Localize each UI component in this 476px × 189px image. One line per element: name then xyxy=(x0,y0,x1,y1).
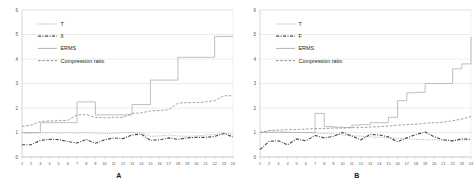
svg-text:6: 6 xyxy=(67,161,69,166)
svg-text:6: 6 xyxy=(305,161,307,166)
svg-text:16: 16 xyxy=(395,161,399,166)
svg-text:3: 3 xyxy=(15,81,18,86)
svg-text:5: 5 xyxy=(58,161,60,166)
svg-text:10: 10 xyxy=(340,161,345,166)
svg-text:4: 4 xyxy=(15,57,18,62)
svg-text:21: 21 xyxy=(441,161,445,166)
svg-text:15: 15 xyxy=(386,161,390,166)
svg-text:7: 7 xyxy=(314,161,316,166)
svg-text:13: 13 xyxy=(368,161,372,166)
svg-text:3: 3 xyxy=(253,81,256,86)
svg-text:19: 19 xyxy=(185,161,189,166)
svg-text:2: 2 xyxy=(253,106,256,111)
svg-text:14: 14 xyxy=(139,161,144,166)
svg-text:12: 12 xyxy=(121,161,125,166)
svg-text:24: 24 xyxy=(231,161,236,166)
series-line xyxy=(260,37,471,133)
svg-text:1: 1 xyxy=(21,161,23,166)
svg-text:9: 9 xyxy=(94,161,96,166)
chart-panel-a: 0123456123456789101112131415161718192021… xyxy=(0,0,238,189)
svg-text:21: 21 xyxy=(203,161,207,166)
svg-text:23: 23 xyxy=(222,161,226,166)
chart-svg-b: 0123456123456789101112131415161718192021… xyxy=(238,0,476,176)
chart-svg-a: 0123456123456789101112131415161718192021… xyxy=(0,0,238,176)
svg-text:5: 5 xyxy=(296,161,298,166)
svg-text:5: 5 xyxy=(253,32,256,37)
legend-label: ERMS xyxy=(61,45,77,51)
svg-text:4: 4 xyxy=(48,161,51,166)
svg-text:1: 1 xyxy=(15,130,18,135)
svg-text:16: 16 xyxy=(157,161,161,166)
series-line xyxy=(22,36,233,132)
series-line xyxy=(22,133,233,137)
svg-text:15: 15 xyxy=(148,161,152,166)
legend-label: Compression ratio xyxy=(299,58,343,64)
series-line xyxy=(22,96,233,127)
panel-caption-a: A xyxy=(0,172,238,179)
svg-text:20: 20 xyxy=(432,161,437,166)
svg-text:13: 13 xyxy=(130,161,134,166)
svg-text:9: 9 xyxy=(332,161,334,166)
legend-label: Compression ratio xyxy=(61,58,105,64)
plot-area-b: 0123456123456789101112131415161718192021… xyxy=(238,0,476,176)
svg-text:1: 1 xyxy=(253,130,256,135)
svg-text:20: 20 xyxy=(194,161,199,166)
svg-text:8: 8 xyxy=(85,161,87,166)
svg-text:6: 6 xyxy=(15,8,18,13)
svg-text:22: 22 xyxy=(450,161,454,166)
svg-text:0: 0 xyxy=(253,155,256,160)
series-line xyxy=(260,132,471,150)
svg-text:23: 23 xyxy=(460,161,464,166)
legend-label: ERMS xyxy=(299,45,315,51)
svg-text:10: 10 xyxy=(102,161,107,166)
svg-text:4: 4 xyxy=(253,57,256,62)
svg-text:11: 11 xyxy=(112,161,116,166)
svg-text:12: 12 xyxy=(359,161,363,166)
svg-text:11: 11 xyxy=(350,161,354,166)
figure-root: 0123456123456789101112131415161718192021… xyxy=(0,0,476,189)
legend-label: T xyxy=(299,21,303,27)
svg-text:2: 2 xyxy=(30,161,32,166)
svg-text:4: 4 xyxy=(286,161,289,166)
svg-text:3: 3 xyxy=(39,161,41,166)
svg-text:5: 5 xyxy=(15,32,18,37)
svg-text:22: 22 xyxy=(212,161,216,166)
svg-text:0: 0 xyxy=(15,155,18,160)
legend-label: T xyxy=(61,21,65,27)
svg-text:3: 3 xyxy=(277,161,279,166)
svg-text:24: 24 xyxy=(469,161,474,166)
svg-text:18: 18 xyxy=(414,161,418,166)
chart-panel-b: 0123456123456789101112131415161718192021… xyxy=(238,0,476,189)
svg-text:7: 7 xyxy=(76,161,78,166)
svg-text:8: 8 xyxy=(323,161,325,166)
svg-text:2: 2 xyxy=(15,106,18,111)
legend-label: δ xyxy=(61,33,64,39)
panel-caption-b: B xyxy=(238,172,476,179)
plot-area-a: 0123456123456789101112131415161718192021… xyxy=(0,0,238,176)
svg-text:2: 2 xyxy=(268,161,270,166)
svg-text:6: 6 xyxy=(253,8,256,13)
svg-text:18: 18 xyxy=(176,161,180,166)
svg-text:1: 1 xyxy=(259,161,261,166)
svg-text:19: 19 xyxy=(423,161,427,166)
legend-label: F xyxy=(299,33,303,39)
svg-text:17: 17 xyxy=(405,161,409,166)
svg-text:17: 17 xyxy=(167,161,171,166)
svg-text:14: 14 xyxy=(377,161,382,166)
